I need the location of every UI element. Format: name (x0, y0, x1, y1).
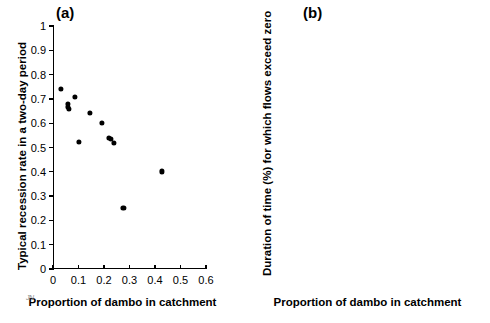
panel-a-y-axis-title: Typical recession rate in a two-day peri… (16, 42, 28, 270)
data-point (58, 86, 63, 91)
panel-a-x-tick (180, 265, 181, 270)
corner-artifact-mark: JN (26, 294, 34, 301)
panel-a-x-tick-label: 0.4 (147, 275, 162, 286)
data-point (100, 120, 105, 125)
panel-a-x-tick-label: 0.5 (173, 275, 188, 286)
panel-a-y-tick-label: 0.4 (31, 166, 46, 177)
panel-a-y-tick-label: 0.5 (31, 142, 46, 153)
panel-a-y-tick (49, 171, 54, 172)
panel-a-y-tick (49, 98, 54, 99)
panel-a-y-tick (49, 25, 54, 26)
panel-a-x-tick (129, 265, 130, 270)
panel-a-y-tick-label: 0.9 (31, 45, 46, 56)
figure-container: (a) 00.10.20.30.40.50.60.70.80.9100.10.2… (0, 0, 490, 323)
panel-a-y-tick (49, 195, 54, 196)
panel-a-x-tick-label: 0 (50, 275, 56, 286)
panel-a-y-tick (49, 244, 54, 245)
panel-a-label: (a) (56, 4, 74, 21)
panel-a-y-tick-label: 0.6 (31, 118, 46, 129)
data-point (66, 106, 71, 111)
panel-a-y-tick-label: 0 (40, 264, 46, 275)
panel-a-y-tick (49, 220, 54, 221)
panel-b-label: (b) (303, 4, 322, 21)
panel-a-y-tick (49, 50, 54, 51)
panel-a-x-tick (154, 265, 155, 270)
data-point (160, 169, 165, 174)
panel-a-x-tick (78, 265, 79, 270)
data-point (77, 139, 82, 144)
panel-a-x-tick-label: 0.2 (96, 275, 111, 286)
panel-a-y-tick (49, 74, 54, 75)
panel-a-x-tick (52, 265, 53, 270)
panel-b-y-axis-title: Duration of time (%) for which flows exc… (261, 11, 273, 276)
panel-a-x-tick-label: 0.6 (198, 275, 213, 286)
data-point (112, 141, 117, 146)
panel-a-y-tick-label: 0.8 (31, 69, 46, 80)
panel-a-plot-area: 00.10.20.30.40.50.60.70.80.9100.10.20.30… (53, 26, 206, 269)
panel-a-x-axis-title: Proportion of dambo in catchment (0, 296, 245, 308)
panel-a-y-tick-label: 0.7 (31, 93, 46, 104)
panel-a-x-tick-label: 0.1 (71, 275, 86, 286)
panel-a-y-tick-label: 0.3 (31, 191, 46, 202)
panel-a-y-tick-label: 1 (40, 21, 46, 32)
panel-a-x-tick (103, 265, 104, 270)
panel-b-x-axis-title: Proportion of dambo in catchment (245, 296, 490, 308)
panel-a-y-tick-label: 0.1 (31, 239, 46, 250)
panel-a-y-tick-label: 0.2 (31, 215, 46, 226)
panel-a-x-tick (205, 265, 206, 270)
panel-a-y-tick (49, 147, 54, 148)
data-point (72, 95, 77, 100)
panel-a: (a) 00.10.20.30.40.50.60.70.80.9100.10.2… (0, 0, 245, 323)
data-point (87, 110, 92, 115)
data-point (121, 205, 126, 210)
panel-a-y-tick (49, 123, 54, 124)
panel-a-x-tick-label: 0.3 (122, 275, 137, 286)
panel-b: (b) 010203040506070809010000.10.20.30.40… (245, 0, 490, 323)
